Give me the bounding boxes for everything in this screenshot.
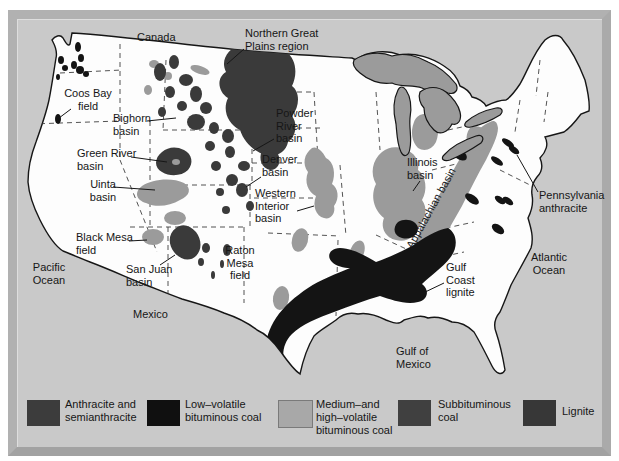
- label-atlantic-ocean: Atlantic Ocean: [526, 251, 572, 276]
- legend-swatch-subbituminous: [398, 400, 431, 426]
- legend-swatch-lignite: [523, 400, 556, 426]
- label-denver-basin: Denver basin: [262, 153, 297, 178]
- label-pennsylvania-anthracite: Pennsylvania anthracite: [539, 189, 604, 214]
- label-green-river-basin: Green River basin: [77, 147, 136, 172]
- label-black-mesa-field: Black Mesa field: [76, 231, 133, 256]
- label-western-interior-basin: Western Interior basin: [255, 187, 296, 225]
- legend-label-anthracite: Anthracite and semianthracite: [65, 398, 137, 424]
- label-uinta-basin: Uinta basin: [84, 178, 122, 203]
- label-pacific-ocean: Pacific Ocean: [26, 261, 72, 286]
- legend-label-subbituminous: Subbituminous coal: [438, 398, 511, 424]
- legend-label-lignite: Lignite: [562, 405, 594, 418]
- label-coos-bay-field: Coos Bay field: [62, 87, 114, 112]
- label-raton-mesa-field: Raton Mesa field: [220, 244, 260, 282]
- label-northern-great-plains: Northern Great Plains region: [245, 27, 318, 52]
- coal-fields-map-figure: Canada Northern Great Plains region Coos…: [0, 0, 619, 461]
- legend-label-medium-high-volatile: Medium–and high–volatile bituminous coal: [316, 398, 392, 437]
- label-canada: Canada: [137, 31, 176, 44]
- legend-swatch-medium-high-volatile: [278, 400, 313, 428]
- legend-label-low-volatile: Low–volatile bituminous coal: [185, 398, 261, 424]
- label-mexico: Mexico: [133, 308, 168, 321]
- label-san-juan-basin: San Juan basin: [126, 263, 172, 288]
- label-powder-river-basin: Powder River basin: [276, 107, 313, 145]
- label-illinois-basin: Illinois basin: [407, 156, 438, 181]
- us-outline: [28, 33, 589, 374]
- legend-swatch-low-volatile: [147, 400, 180, 426]
- label-gulf-coast-lignite: Gulf Coast lignite: [446, 261, 475, 299]
- label-gulf-of-mexico: Gulf of Mexico: [396, 345, 431, 370]
- label-bighorn-basin: Bighorn basin: [113, 112, 151, 137]
- legend-swatch-anthracite: [27, 400, 60, 426]
